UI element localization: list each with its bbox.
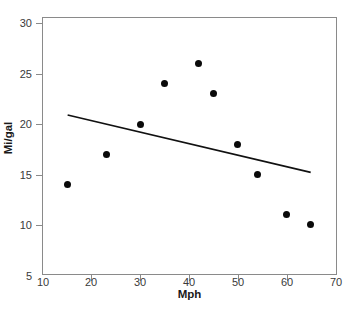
trendline-layer	[0, 0, 352, 310]
scatter-chart: 30 25 20 15 10 5 10 20 30 40 50 60 70 Mp…	[0, 0, 352, 310]
regression-line	[68, 115, 311, 172]
